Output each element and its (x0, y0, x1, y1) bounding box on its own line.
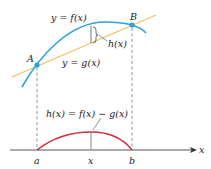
h-leader (99, 35, 107, 41)
tick-label-b: b (129, 155, 135, 166)
point-A (34, 62, 39, 67)
axis-label-x: x (199, 144, 205, 155)
f-curve (22, 22, 146, 87)
tick-label-a: a (34, 155, 40, 166)
label-h: h(x) (108, 38, 127, 49)
label-g: y = g(x) (61, 57, 101, 68)
h-curve (37, 132, 132, 150)
label-h-definition: h(x) = f(x) − g(x) (46, 108, 128, 119)
label-point-B: B (129, 11, 137, 22)
tick-label-x: x (88, 155, 94, 166)
label-point-A: A (26, 53, 34, 64)
area-between-curves-diagram: y = f(x) y = g(x) h(x) A B h(x) = f(x) −… (0, 0, 211, 169)
h-def-leader (93, 118, 101, 130)
label-f: y = f(x) (50, 12, 87, 23)
point-B (129, 22, 134, 27)
